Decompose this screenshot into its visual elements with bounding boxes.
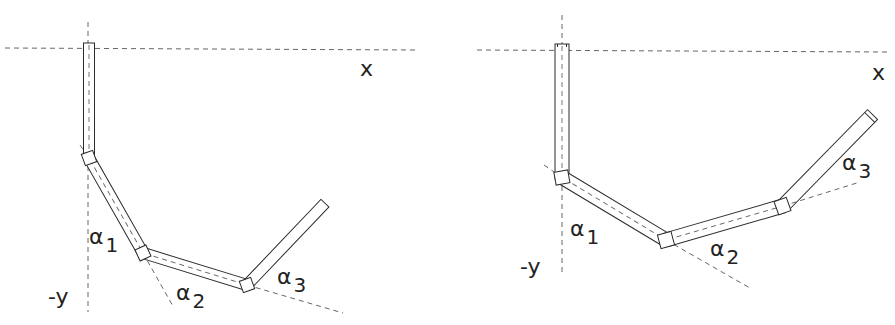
alpha-index: 1 (587, 225, 600, 249)
alpha-symbol: α (277, 264, 292, 289)
left-x-axis-label: x (360, 58, 373, 80)
right-x-axis-label: x (872, 62, 885, 84)
left-x-axis-line (5, 48, 415, 50)
right-x-label-text: x (872, 60, 885, 85)
alpha-symbol: α (710, 236, 725, 261)
alpha-index: 1 (106, 233, 119, 257)
right-y-label-text: -y (520, 254, 541, 279)
left-figure (5, 22, 415, 313)
left-link-1 (84, 43, 95, 159)
alpha-index: 3 (294, 273, 307, 297)
left-alpha1-label: α1 (89, 226, 118, 255)
right-x-axis-line (477, 50, 887, 52)
right-figure (477, 15, 887, 288)
right-alpha3-label: α3 (842, 152, 871, 181)
left-y-axis-label: -y (48, 286, 69, 308)
left-x-label-text: x (360, 56, 373, 81)
alpha-index: 2 (727, 245, 740, 269)
alpha-symbol: α (570, 216, 585, 241)
alpha-symbol: α (176, 280, 191, 305)
alpha-symbol: α (842, 150, 857, 175)
right-link-1 (555, 44, 569, 179)
left-y-label-text: -y (48, 284, 69, 309)
left-alpha2-label: α2 (176, 282, 205, 311)
right-joint-2 (657, 231, 674, 248)
right-alpha1-label: α1 (570, 218, 599, 247)
right-joint-1 (554, 170, 570, 185)
alpha-symbol: α (89, 224, 104, 249)
right-y-axis-label: -y (520, 256, 541, 278)
kinematic-chain-diagram (0, 0, 895, 325)
right-alpha2-label: α2 (710, 238, 739, 267)
left-alpha3-label: α3 (277, 266, 306, 295)
alpha-index: 2 (193, 289, 206, 313)
alpha-index: 3 (859, 159, 872, 183)
